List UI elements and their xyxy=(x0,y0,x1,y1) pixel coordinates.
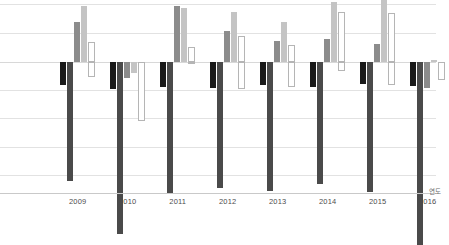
bar xyxy=(260,62,266,85)
bar xyxy=(367,62,373,192)
x-axis-title: 연도 xyxy=(429,186,441,196)
x-tick-label: 2010 xyxy=(100,197,156,206)
bar xyxy=(281,22,287,62)
bar-group xyxy=(210,0,260,194)
bar-group xyxy=(60,0,110,194)
bar xyxy=(210,62,216,88)
bar xyxy=(124,62,130,78)
bar xyxy=(224,31,230,62)
bar xyxy=(274,41,280,62)
bar xyxy=(388,13,394,62)
bar xyxy=(88,62,94,77)
bar xyxy=(288,62,294,87)
bar xyxy=(338,62,344,71)
bar xyxy=(417,62,423,245)
bar-group xyxy=(160,0,210,194)
bar xyxy=(310,62,316,87)
bar xyxy=(160,62,166,87)
bar xyxy=(110,62,116,89)
bar xyxy=(410,62,416,86)
bar xyxy=(67,62,73,181)
bar xyxy=(138,62,144,121)
bar xyxy=(288,45,294,62)
bar xyxy=(267,62,273,191)
bar xyxy=(117,62,123,234)
bar-group xyxy=(110,0,160,194)
bar xyxy=(331,2,337,62)
x-tick-label: 2012 xyxy=(200,197,256,206)
bar-group xyxy=(410,0,449,194)
bar xyxy=(181,8,187,62)
bar xyxy=(317,62,323,184)
bar xyxy=(74,22,80,62)
bar xyxy=(217,62,223,188)
bar xyxy=(231,12,237,62)
bar xyxy=(81,6,87,62)
bar xyxy=(131,62,137,73)
bar xyxy=(324,39,330,62)
bar xyxy=(360,62,366,84)
bar xyxy=(431,60,437,62)
x-tick-label: 2013 xyxy=(250,197,306,206)
bar xyxy=(374,44,380,62)
bar xyxy=(88,42,94,62)
bar xyxy=(238,62,244,89)
x-tick-label: 2009 xyxy=(50,197,106,206)
x-axis-line xyxy=(0,193,436,194)
x-tick-label: 2016 xyxy=(400,197,449,206)
x-tick-label: 2015 xyxy=(350,197,406,206)
bar xyxy=(388,62,394,85)
bar xyxy=(438,62,444,80)
bar-group xyxy=(310,0,360,194)
bar xyxy=(424,62,430,88)
bar-group xyxy=(260,0,310,194)
bar xyxy=(60,62,66,85)
bar xyxy=(381,0,387,62)
bar-group xyxy=(360,0,410,194)
plot-area xyxy=(0,0,436,194)
bar xyxy=(188,62,194,64)
bar xyxy=(338,12,344,62)
bar xyxy=(238,36,244,62)
bar xyxy=(167,62,173,194)
x-tick-label: 2011 xyxy=(150,197,206,206)
x-tick-label: 2014 xyxy=(300,197,356,206)
bar xyxy=(188,47,194,62)
bar xyxy=(174,6,180,62)
